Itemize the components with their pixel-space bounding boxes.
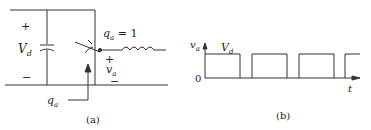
switch-state-label: qa = 1 <box>103 27 137 42</box>
vd-plus: + <box>21 20 30 33</box>
x-axis-label: t <box>348 83 353 94</box>
square-wave <box>205 54 360 78</box>
vd-label: Vd <box>18 42 32 58</box>
origin-label: 0 <box>195 73 201 84</box>
caption-a: (a) <box>86 114 100 125</box>
inductor-icon <box>122 47 166 50</box>
vd-level-label: Vd <box>221 41 234 56</box>
y-axis-arrow-icon <box>203 43 207 49</box>
y-axis-label: va <box>190 39 200 53</box>
figure: + Vd − qa = 1 + va − qa (a) va Vd 0 t (b… <box>0 0 371 130</box>
control-arrow-icon <box>85 64 91 72</box>
x-axis-arrow-icon <box>352 76 360 80</box>
control-line <box>68 68 88 100</box>
caption-b: (b) <box>276 110 290 121</box>
qa-label: qa <box>47 94 58 109</box>
va-minus: − <box>110 75 119 88</box>
vd-minus: − <box>22 71 31 84</box>
